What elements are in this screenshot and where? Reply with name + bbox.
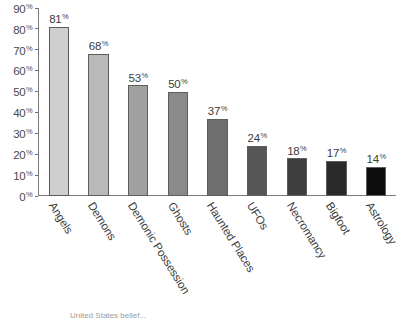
bar-value-label: 37% (208, 104, 227, 117)
y-axis-tick-label: 70% (13, 44, 32, 57)
bar[interactable] (366, 167, 387, 196)
y-axis-tick-label: 30% (13, 127, 32, 140)
bar-value-label: 18% (287, 144, 306, 157)
y-axis-tick: 30% (0, 127, 38, 139)
x-axis-label: Angels (47, 200, 76, 236)
y-axis-tick-label: 50% (13, 85, 32, 98)
x-axis-label: Astrology (364, 200, 399, 246)
bar-slot: 17% (326, 8, 347, 196)
plot-area: 81%68%53%50%37%24%18%17%14% (39, 8, 396, 196)
bar-value-label: 14% (366, 152, 385, 165)
bar-value-label: 81% (49, 12, 68, 25)
y-axis-tick-label: 20% (13, 148, 32, 161)
bar-slot: 53% (128, 8, 149, 196)
bar[interactable] (49, 27, 70, 196)
x-axis-label: Demons (86, 200, 119, 242)
bar-slot: 18% (287, 8, 308, 196)
bar-value-label: 24% (247, 131, 266, 144)
y-axis-tick: 50% (0, 86, 38, 98)
y-axis-tick: 80% (0, 23, 38, 35)
y-axis-tick-label: 90% (13, 2, 32, 15)
y-axis-tick: 10% (0, 169, 38, 181)
bar[interactable] (207, 119, 228, 196)
x-axis-label: Necromancy (285, 200, 329, 260)
bar-value-label: 50% (168, 77, 187, 90)
x-axis-label: UFOs (245, 200, 271, 231)
y-axis-tick: 40% (0, 106, 38, 118)
bar-value-label: 17% (327, 146, 346, 159)
y-axis-tick: 0% (0, 190, 38, 202)
bar[interactable] (326, 161, 347, 197)
y-axis-tick: 20% (0, 148, 38, 160)
bar-chart: 0%10%20%30%40%50%60%70%80%90% 81%68%53%5… (0, 0, 407, 321)
y-axis-tick: 60% (0, 65, 38, 77)
y-axis-tick-label: 60% (13, 64, 32, 77)
y-axis-tick: 70% (0, 44, 38, 56)
bar-slot: 68% (88, 8, 109, 196)
y-axis-tick: 90% (0, 2, 38, 14)
bar[interactable] (128, 85, 149, 196)
bar-slot: 81% (49, 8, 70, 196)
bar-slot: 24% (247, 8, 268, 196)
bar-slot: 50% (168, 8, 189, 196)
chart-caption: United States belief... (70, 311, 400, 320)
y-axis-tick-label: 10% (13, 169, 32, 182)
y-axis: 0%10%20%30%40%50%60%70%80%90% (0, 8, 38, 196)
bar-value-label: 68% (89, 39, 108, 52)
bar-slot: 14% (366, 8, 387, 196)
y-axis-tick-label: 0% (19, 190, 32, 203)
bar[interactable] (247, 146, 268, 196)
y-axis-tick-label: 40% (13, 106, 32, 119)
bar[interactable] (168, 92, 189, 196)
bar-slot: 37% (207, 8, 228, 196)
bar-value-label: 53% (128, 71, 147, 84)
x-axis-label: Bigfoot (324, 200, 353, 236)
bar[interactable] (287, 158, 308, 196)
bar[interactable] (88, 54, 109, 196)
y-axis-tick-label: 80% (13, 23, 32, 36)
x-axis-labels: AngelsDemonsDemonic PossessionGhostsHaun… (39, 196, 396, 306)
x-axis-label: Ghosts (166, 200, 195, 237)
